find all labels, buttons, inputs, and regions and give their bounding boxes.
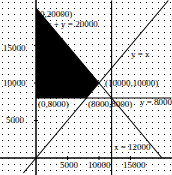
annotation-label: (0,8000) [38,99,69,109]
y-tick-label: 15000 [3,43,26,53]
y-tick-label: 5000 [6,115,25,125]
x-tick-label: 15000 [123,160,146,170]
x-tick-label: 5000 [60,160,79,170]
chart: (0,20000)x + y = 20000y = x(10000,10000)… [0,0,172,175]
annotation-label: x = 12000 [114,142,151,152]
annotation-label: (8000,8000) [88,99,132,109]
annotation-label: x + y = 20000 [47,19,98,29]
y-tick-label: 10000 [3,78,26,88]
annotation-label: y = x [131,49,150,59]
annotation-label: y = 8000 [140,97,172,107]
x-tick-label: 10000 [88,160,111,170]
annotation-label: (10000,10000) [105,78,158,88]
annotation-label: (0,20000) [37,9,72,19]
